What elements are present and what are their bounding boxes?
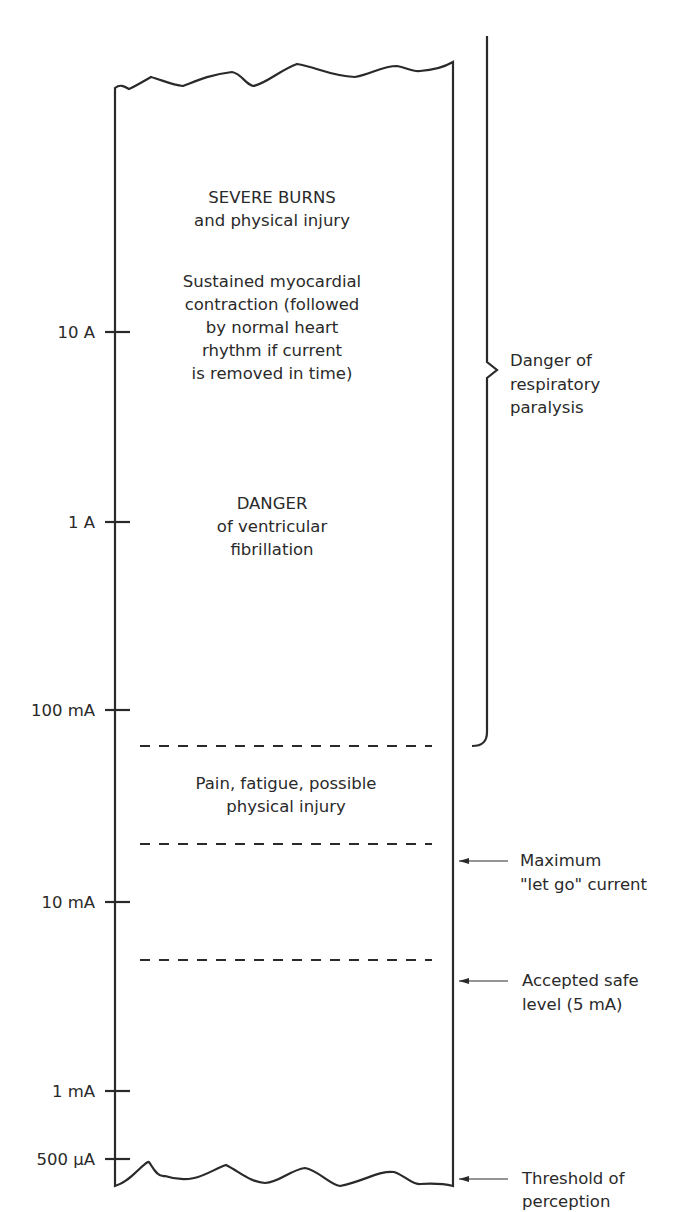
zone-ventricular-fibrillation: DANGER of ventricular fibrillation <box>217 494 328 559</box>
electric-current-effects-diagram: 10 A 1 A 100 mA 10 mA 1 mA 500 µA SEVERE… <box>0 0 684 1212</box>
tick-label-1a: 1 A <box>68 513 96 532</box>
zone-text: of ventricular <box>217 517 328 536</box>
tick-label-10a: 10 A <box>57 323 95 342</box>
zone-text: is removed in time) <box>192 364 353 383</box>
tick-label-100ma: 100 mA <box>31 701 96 720</box>
arrowhead-icon <box>459 1176 469 1182</box>
zone-text: physical injury <box>226 797 346 816</box>
zone-text: contraction (followed <box>185 295 360 314</box>
axis-tick-labels: 10 A 1 A 100 mA 10 mA 1 mA 500 µA <box>31 323 96 1169</box>
zone-text: and physical injury <box>194 211 350 230</box>
bracket-annotation-respiratory-paralysis: Danger of respiratory paralysis <box>510 351 600 417</box>
arrow-threshold-perception: Threshold of perception <box>459 1169 626 1211</box>
zone-text: fibrillation <box>230 540 313 559</box>
annotation-text: Accepted safe <box>522 971 639 990</box>
zone-text: SEVERE BURNS <box>208 188 335 207</box>
annotation-text: paralysis <box>510 398 584 417</box>
zone-pain-fatigue: Pain, fatigue, possible physical injury <box>196 774 377 816</box>
arrowhead-icon <box>459 858 469 864</box>
annotation-text: Threshold of <box>521 1169 626 1188</box>
arrow-let-go-current: Maximum "let go" current <box>459 851 647 894</box>
arrowhead-icon <box>459 978 469 984</box>
axis-ticks <box>105 332 130 1159</box>
zone-text: Pain, fatigue, possible <box>196 774 377 793</box>
tick-label-10ma: 10 mA <box>41 893 95 912</box>
tick-label-500ua: 500 µA <box>36 1150 95 1169</box>
annotation-text: Danger of <box>510 351 593 370</box>
respiratory-bracket <box>472 36 497 746</box>
zone-text: rhythm if current <box>202 341 343 360</box>
zone-text: by normal heart <box>206 318 339 337</box>
arrow-safe-level: Accepted safe level (5 mA) <box>459 971 639 1014</box>
annotation-text: perception <box>522 1192 610 1211</box>
zone-severe-burns: SEVERE BURNS and physical injury <box>194 188 350 230</box>
annotation-text: respiratory <box>510 375 600 394</box>
zone-text: Sustained myocardial <box>183 272 361 291</box>
tick-label-1ma: 1 mA <box>52 1082 96 1101</box>
annotation-text: Maximum <box>520 851 601 870</box>
scale-column-outline <box>115 62 453 1186</box>
zone-myocardial-contraction: Sustained myocardial contraction (follow… <box>183 272 361 383</box>
zone-text: DANGER <box>237 494 308 513</box>
annotation-text: level (5 mA) <box>522 995 622 1014</box>
annotation-text: "let go" current <box>520 875 647 894</box>
